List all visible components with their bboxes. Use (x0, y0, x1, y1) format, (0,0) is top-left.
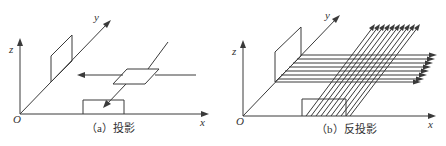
z-axis-arrow-icon (240, 40, 246, 48)
yz-projection-parallelogram (51, 35, 72, 82)
panel-b-caption: （b）反投影 (316, 124, 377, 135)
panel-b-x-label: x (428, 119, 433, 130)
panel-b-z-label: z (232, 46, 236, 57)
ray-diagonal-top (148, 42, 168, 69)
panel-a-caption: （a）投影 (86, 123, 135, 134)
panel-a-z-label: z (9, 44, 13, 55)
panel-b (240, 15, 437, 119)
panel-a-y-label: y (94, 12, 99, 23)
diagonal-backprojection-rays (306, 24, 420, 116)
figure-canvas (0, 0, 446, 146)
panel-b-origin-label: O (236, 116, 244, 127)
x-projection-rectangle (302, 99, 346, 116)
yz-projection-parallelogram (275, 27, 301, 82)
panel-a-origin-label: O (13, 114, 21, 125)
projection-figure: z y O x （a）投影 z y O x （b）反投影 (0, 0, 446, 146)
z-axis-arrow-icon (17, 38, 23, 46)
ray-diagonal-bottom (107, 84, 126, 104)
ray-horizontal-arrow-icon (77, 72, 85, 78)
object-plane (113, 69, 159, 84)
panel-a (17, 20, 209, 117)
panel-b-y-label: y (325, 10, 330, 21)
panel-a-x-label: x (200, 117, 205, 128)
